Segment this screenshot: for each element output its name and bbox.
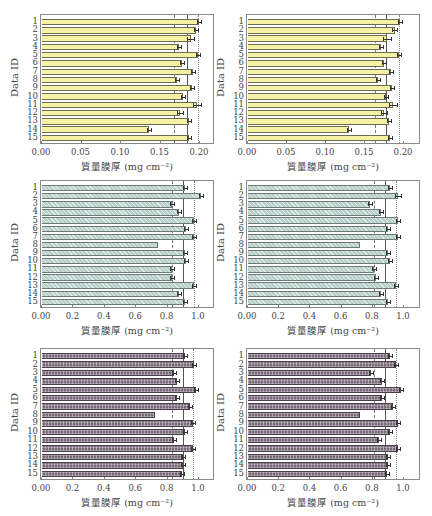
error-bar-cap: [181, 45, 182, 49]
error-bar-cap: [396, 235, 397, 239]
error-bar-cap: [396, 219, 397, 223]
x-tick-mark: [372, 305, 373, 308]
bar-7: [42, 403, 190, 410]
error-bar-cap: [396, 421, 397, 425]
error-bar-cap: [380, 379, 381, 383]
error-bar-cap: [176, 371, 177, 375]
x-tick-label: 0.05: [71, 147, 90, 157]
plot-area: [246, 348, 420, 480]
error-bar-cap: [183, 430, 184, 434]
error-bar-cap: [183, 251, 184, 255]
error-bar-cap: [392, 354, 393, 358]
chart-panel-top-left: 123456789101112131415Data ID0.000.050.10…: [0, 0, 216, 172]
bar-6: [42, 60, 182, 66]
bar-7: [248, 69, 391, 75]
error-bar-cap: [147, 128, 148, 132]
error-bar-cap: [188, 405, 189, 409]
error-bar-cap: [388, 354, 389, 358]
bar-12: [248, 274, 376, 280]
error-bar-cap: [183, 186, 184, 190]
reference-line-dotted: [396, 349, 397, 479]
error-bar-cap: [181, 210, 182, 214]
error-bar-cap: [368, 202, 369, 206]
error-bar: [383, 39, 391, 40]
x-tick-label: 0.05: [277, 147, 296, 157]
error-bar: [187, 39, 195, 40]
bar-13: [248, 282, 396, 288]
error-bar-cap: [401, 194, 402, 198]
error-bar-cap: [395, 194, 396, 198]
error-bar-cap: [395, 405, 396, 409]
x-tick-mark: [286, 141, 287, 144]
error-bar-cap: [383, 292, 384, 296]
x-tick-label: 0.4: [303, 311, 317, 321]
x-tick-mark: [403, 305, 404, 308]
plot-area: [246, 14, 420, 144]
error-bar-cap: [180, 61, 181, 65]
y-tick-label: 11: [24, 435, 38, 443]
x-tick-mark: [309, 477, 310, 480]
y-axis-title: Data ID: [215, 223, 226, 263]
x-axis-title: 質量膜厚 (mg cm⁻²): [81, 323, 173, 337]
y-tick-label: 1: [24, 351, 38, 359]
bar-13: [248, 454, 388, 461]
error-bar-cap: [384, 379, 385, 383]
error-bar-cap: [179, 379, 180, 383]
x-tick-mark: [104, 305, 105, 308]
x-tick-label: 0.8: [365, 311, 379, 321]
error-bar-cap: [400, 447, 401, 451]
bar-7: [248, 234, 398, 240]
error-bar-cap: [192, 363, 193, 367]
error-bar-cap: [196, 219, 197, 223]
error-bar-cap: [193, 103, 194, 107]
x-tick-mark: [309, 305, 310, 308]
error-bar-cap: [381, 111, 382, 115]
error-bar-cap: [384, 95, 385, 99]
x-tick-mark: [364, 141, 365, 144]
x-tick-label: 0.4: [97, 483, 111, 493]
error-bar-cap: [188, 227, 189, 231]
bar-6: [42, 395, 177, 402]
error-bar-cap: [195, 421, 196, 425]
x-tick-mark: [247, 305, 248, 308]
error-bar-cap: [196, 284, 197, 288]
bar-14: [42, 126, 149, 132]
error-bar-cap: [372, 267, 373, 271]
bar-13: [42, 282, 194, 288]
error-bar-cap: [187, 354, 188, 358]
error-bar-cap: [175, 379, 176, 383]
bar-1: [248, 185, 390, 191]
y-axis-title: Data ID: [9, 393, 20, 433]
bar-2: [42, 193, 201, 199]
bar-5: [42, 387, 196, 394]
error-bar-cap: [174, 202, 175, 206]
error-bar-cap: [373, 371, 374, 375]
x-tick-label: 0.8: [160, 311, 174, 321]
error-bar-cap: [389, 70, 390, 74]
bar-15: [42, 471, 182, 478]
error-bar-cap: [181, 463, 182, 467]
bar-11: [42, 102, 197, 108]
error-bar-cap: [394, 86, 395, 90]
x-tick-mark: [341, 477, 342, 480]
y-tick-label: 6: [24, 393, 38, 401]
error-bar-cap: [192, 235, 193, 239]
error-bar-cap: [194, 28, 195, 32]
x-tick-label: 0.15: [355, 147, 374, 157]
x-tick-label: 0.20: [394, 147, 413, 157]
error-bar-cap: [390, 300, 391, 304]
x-tick-mark: [167, 477, 168, 480]
plot-area: [246, 180, 420, 308]
x-tick-label: 0.6: [128, 311, 142, 321]
bar-3: [42, 35, 191, 41]
bar-10: [42, 429, 185, 436]
error-bar-cap: [388, 430, 389, 434]
bar-4: [42, 209, 179, 215]
error-bar-cap: [390, 455, 391, 459]
chart-panel-bottom-left: 123456789101112131415Data ID0.000.20.40.…: [0, 344, 216, 516]
error-bar-cap: [390, 227, 391, 231]
error-bar-cap: [386, 455, 387, 459]
error-bar-cap: [379, 45, 380, 49]
error-bar-cap: [386, 463, 387, 467]
bar-2: [42, 361, 194, 368]
